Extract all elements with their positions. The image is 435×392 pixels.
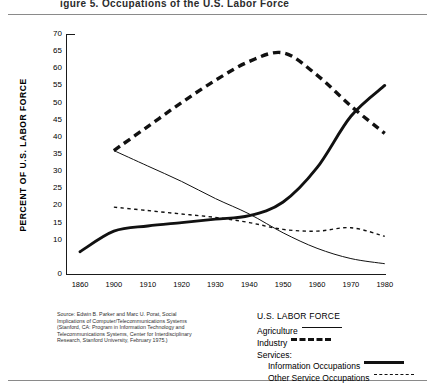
legend-item-information: Information Occupations bbox=[257, 361, 435, 372]
x-tick-label: 1980 bbox=[368, 281, 402, 289]
y-tick-label: 30 bbox=[36, 167, 62, 175]
legend-swatch-information-icon bbox=[364, 361, 404, 372]
series-line-information bbox=[80, 85, 385, 251]
y-tick-label: 55 bbox=[36, 81, 62, 89]
y-tick-label: 50 bbox=[36, 99, 62, 107]
x-tick-label: 1950 bbox=[266, 281, 300, 289]
chart-curves bbox=[66, 34, 386, 274]
x-tick-label: 1900 bbox=[97, 281, 131, 289]
y-tick-label: 40 bbox=[36, 133, 62, 141]
legend-label-agriculture: Agriculture bbox=[257, 326, 298, 337]
y-tick-label: 0 bbox=[36, 270, 62, 278]
page-rule-top bbox=[8, 14, 427, 15]
legend-item-industry: Industry bbox=[257, 338, 435, 349]
y-tick-label: 45 bbox=[36, 116, 62, 124]
series-line-industry bbox=[114, 52, 385, 150]
legend-swatch-agriculture-icon bbox=[302, 327, 342, 336]
chart-plot-area: 706560555045403530252015100 186019001910… bbox=[66, 34, 386, 274]
y-tick-label: 70 bbox=[36, 30, 62, 38]
y-tick-label: 10 bbox=[36, 236, 62, 244]
x-axis-line bbox=[66, 274, 386, 275]
x-tick-label: 1910 bbox=[131, 281, 165, 289]
x-tick-label: 1960 bbox=[300, 281, 334, 289]
y-axis-label: PERCENT OF U.S. LABOR FORCE bbox=[18, 70, 28, 240]
x-tick-label: 1930 bbox=[198, 281, 232, 289]
y-tick-label: 15 bbox=[36, 219, 62, 227]
legend-item-other-service: Other Service Occupations bbox=[257, 373, 435, 384]
legend-item-agriculture: Agriculture bbox=[257, 326, 435, 337]
x-tick-label: 1970 bbox=[334, 281, 368, 289]
y-tick-label: 35 bbox=[36, 150, 62, 158]
x-tick-label: 1860 bbox=[63, 281, 97, 289]
y-tick-label: 60 bbox=[36, 64, 62, 72]
legend-swatch-industry-icon bbox=[291, 338, 331, 349]
legend-label-other-service: Other Service Occupations bbox=[268, 373, 370, 384]
figure-title: igure 5. Occupations of the U.S. Labor F… bbox=[60, 0, 390, 9]
chart-legend: U.S. LABOR FORCE Agriculture Industry Se… bbox=[257, 311, 435, 385]
series-line-other-service bbox=[114, 207, 385, 236]
x-tick-label: 1920 bbox=[165, 281, 199, 289]
legend-label-industry: Industry bbox=[257, 338, 287, 349]
legend-group-services: Services: bbox=[257, 350, 435, 361]
y-tick-label: 25 bbox=[36, 184, 62, 192]
legend-label-information: Information Occupations bbox=[268, 361, 360, 372]
legend-title: U.S. LABOR FORCE bbox=[257, 311, 435, 321]
x-tick-label: 1940 bbox=[232, 281, 266, 289]
series-line-agriculture bbox=[114, 151, 385, 264]
legend-swatch-other-service-icon bbox=[374, 374, 414, 383]
y-tick-label: 65 bbox=[36, 47, 62, 55]
source-note: Source: Edwin B. Parker and Marc U. Pora… bbox=[57, 311, 202, 344]
y-tick-label: 20 bbox=[36, 201, 62, 209]
